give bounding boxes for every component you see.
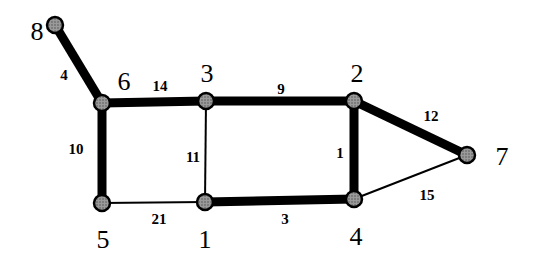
- edge-weight-label: 12: [424, 108, 439, 124]
- node-3: [198, 93, 214, 109]
- node-label: 8: [31, 17, 44, 46]
- edge-3-1: [205, 101, 206, 202]
- edge-weight-label: 15: [420, 187, 435, 203]
- edge-weight-label: 14: [153, 78, 169, 94]
- nodes-layer: [47, 17, 475, 211]
- node-label: 6: [118, 67, 131, 96]
- node-6: [94, 95, 110, 111]
- edge-2-7: [354, 101, 467, 155]
- node-label: 5: [97, 225, 110, 254]
- edge-1-4: [205, 199, 354, 202]
- edge-weight-label: 1: [336, 145, 344, 161]
- node-label: 2: [351, 59, 364, 88]
- node-2: [346, 93, 362, 109]
- node-4: [346, 191, 362, 207]
- edge-4-7: [354, 155, 467, 199]
- node-8: [47, 17, 63, 33]
- edge-8-6: [55, 25, 102, 103]
- node-1: [197, 194, 213, 210]
- node-5: [94, 195, 110, 211]
- node-label: 4: [350, 222, 363, 251]
- graph-svg: 414912101112131512345678: [0, 0, 534, 265]
- edge-weight-label: 11: [186, 149, 200, 165]
- node-7: [459, 147, 475, 163]
- edge-weight-label: 3: [281, 211, 289, 227]
- edges-layer: [55, 25, 467, 203]
- edge-weight-label: 21: [152, 211, 167, 227]
- edge-weight-label: 4: [60, 67, 68, 83]
- node-label: 7: [496, 142, 509, 171]
- node-label: 1: [199, 225, 212, 254]
- edge-weight-label: 9: [277, 81, 285, 97]
- node-label: 3: [201, 59, 214, 88]
- edge-weight-label: 10: [69, 141, 84, 157]
- edge-5-1: [102, 202, 205, 203]
- edge-6-3: [102, 101, 206, 103]
- graph-diagram: 414912101112131512345678: [0, 0, 534, 265]
